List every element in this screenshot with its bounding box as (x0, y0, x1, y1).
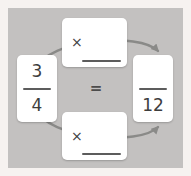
left-fraction-denominator: 4 (17, 90, 57, 123)
top-multiplier-card: × (62, 18, 127, 67)
top-multiplier-blank[interactable] (82, 60, 121, 62)
widget-frame: 3 4 = 12 × × (0, 0, 191, 176)
bottom-multiply-sign: × (71, 129, 83, 143)
right-fraction-card: 12 (133, 55, 173, 122)
left-fraction-card: 3 4 (17, 55, 57, 122)
bottom-multiplier-blank[interactable] (82, 153, 121, 155)
right-fraction-numerator-blank[interactable] (133, 55, 173, 88)
right-fraction-denominator: 12 (133, 90, 173, 123)
equals-sign: = (88, 80, 104, 96)
top-multiply-sign: × (71, 35, 83, 49)
bottom-multiplier-card: × (62, 112, 127, 160)
left-fraction-numerator: 3 (17, 55, 57, 88)
diagram-panel: 3 4 = 12 × × (8, 8, 183, 168)
